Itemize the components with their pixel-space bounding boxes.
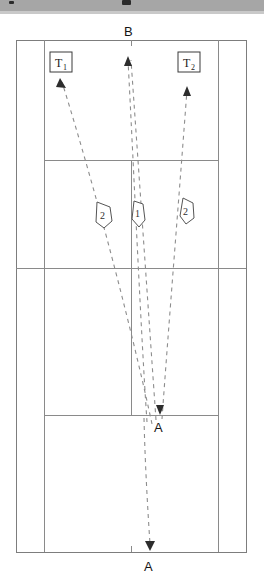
court-svg: T 1 T 2 2 1 2 B A (0, 14, 264, 586)
team-label-t1-sub: 1 (63, 63, 67, 72)
trajectory-group (62, 60, 187, 544)
scan-speck (9, 1, 14, 4)
position-marker-center[interactable]: 1 (132, 201, 145, 227)
position-marker-right-label: 2 (183, 206, 188, 217)
position-marker-right[interactable]: 2 (180, 198, 194, 224)
team-label-t2-text: T (183, 56, 191, 70)
point-label-b: B (124, 24, 133, 39)
arrowhead-t2 (183, 86, 191, 96)
arrowhead-t1 (56, 78, 66, 88)
position-marker-center-label: 1 (135, 208, 140, 219)
position-marker-left[interactable]: 2 (96, 202, 112, 228)
point-label-a-bottom: A (144, 559, 153, 574)
diagram-page: T 1 T 2 2 1 2 B A (0, 0, 264, 586)
team-label-t1[interactable]: T 1 (50, 52, 72, 72)
trajectory-to-a-bottom (144, 418, 150, 544)
team-label-t2-sub: 2 (191, 63, 195, 72)
arrowhead-a-bottom (145, 541, 155, 551)
trajectory-to-t1 (62, 82, 152, 424)
scan-artifact-band (0, 0, 264, 14)
position-marker-left-label: 2 (100, 210, 105, 221)
trajectory-to-t2 (162, 90, 187, 419)
team-label-t2[interactable]: T 2 (178, 52, 200, 72)
team-label-t1-text: T (55, 56, 63, 70)
court-figure: T 1 T 2 2 1 2 B A (0, 14, 264, 586)
arrowhead-b (124, 56, 132, 66)
point-label-a-mid: A (154, 420, 163, 435)
scan-speck (122, 0, 131, 5)
